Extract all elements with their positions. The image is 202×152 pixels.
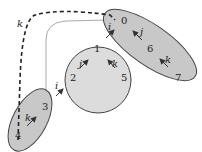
node-4: 4	[15, 130, 21, 141]
node-5: 5	[121, 72, 127, 83]
node-7: 7	[175, 72, 181, 83]
node-1: 1	[94, 43, 100, 54]
node-3: 3	[42, 101, 48, 112]
bridge-top-label: i	[108, 21, 111, 32]
node-2: 2	[70, 72, 76, 83]
node-0: 0	[121, 15, 127, 26]
circle-k-label: k	[112, 58, 118, 69]
node-6: 6	[147, 43, 153, 54]
ellipse-bottom-k-label: k	[25, 112, 31, 123]
dashed-k-label: k	[17, 18, 23, 29]
bridge-bottom-label: i	[55, 80, 58, 91]
diagram-canvas: 0 1 2 3 4 5 6 7 k j k j k k i i	[0, 0, 202, 152]
ellipse-top-k-label: k	[165, 54, 171, 65]
